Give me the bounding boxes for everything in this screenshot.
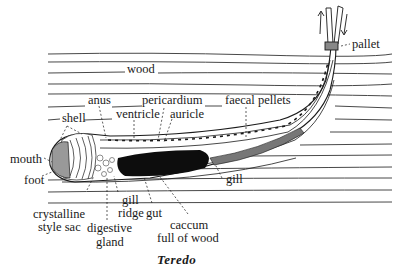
label-gland: gland (96, 236, 124, 249)
label-shell: shell (62, 112, 86, 125)
siphons (325, 6, 343, 50)
label-gill: gill (226, 173, 243, 186)
label-pericardium: pericardium (142, 94, 202, 107)
label-faecal-pellets: faecal pellets (225, 94, 291, 107)
label-ventricle: ventricle (116, 108, 160, 121)
label-gut: gut (146, 207, 162, 220)
label-auricle: auricle (170, 108, 204, 121)
label-wood: wood (127, 63, 155, 76)
label-full-of-wood: full of wood (157, 232, 219, 245)
figure-caption: Teredo (157, 252, 196, 268)
label-digestive: digestive (87, 222, 132, 235)
label-style-sac: style sac (38, 221, 81, 234)
label-pallet: pallet (352, 38, 380, 51)
label-mouth: mouth (10, 153, 42, 166)
label-anus: anus (88, 94, 111, 107)
label-foot: foot (24, 174, 44, 187)
label-gill-ridge-2: ridge (118, 207, 144, 220)
pallet-shape (325, 42, 338, 50)
